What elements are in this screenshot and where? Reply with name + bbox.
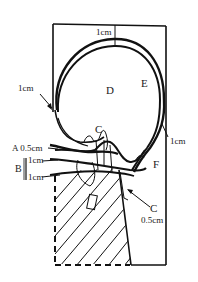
dashed-border (55, 176, 130, 265)
right-margin-label: 1cm (170, 137, 186, 146)
region-d-label: D (106, 85, 114, 96)
label-b: B (15, 164, 22, 174)
region-c-lower-label: C (150, 203, 157, 214)
b-upper-label: 1cm (28, 156, 44, 165)
region-c-upper-label: C (95, 124, 102, 135)
region-f-label: F (153, 159, 159, 170)
left-margin-label: 1cm (18, 84, 34, 93)
region-e-label: E (141, 78, 148, 89)
top-margin-label: 1cm (96, 28, 112, 37)
b-lower-label: 1cm (28, 173, 44, 182)
hatched-region (55, 160, 140, 266)
leader-lines (24, 94, 168, 207)
label-a: A 0.5cm (12, 144, 43, 153)
diagram-figure (0, 0, 198, 282)
c-lower-margin-label: 0.5cm (141, 216, 163, 225)
